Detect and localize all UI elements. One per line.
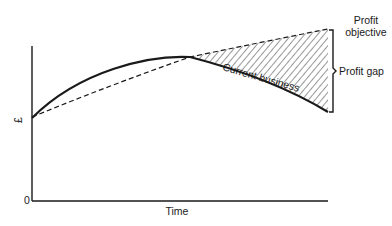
profit-gap-bracket	[329, 30, 336, 112]
profit-gap-diagram: £ 0 Time Profit objective Profit gap Cur…	[0, 0, 392, 226]
profit-objective-label-line2: objective	[345, 26, 387, 38]
y-axis-label: £	[12, 117, 24, 123]
y-origin-label: 0	[24, 194, 30, 206]
profit-objective-label-line1: Profit	[354, 14, 379, 26]
x-axis-label: Time	[166, 205, 189, 217]
profit-gap-label: Profit gap	[339, 65, 384, 77]
